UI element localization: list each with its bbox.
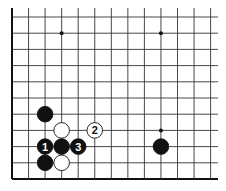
stones: 213: [37, 106, 168, 170]
black-stone: [153, 139, 169, 155]
black-stone: [37, 106, 53, 122]
go-board: 213: [0, 0, 226, 191]
move-number: 3: [75, 141, 81, 153]
star-point-icon: [159, 128, 163, 132]
black-stone: [37, 155, 53, 171]
star-point-icon: [60, 31, 64, 35]
black-stone: [54, 139, 70, 155]
black-stone-3: 3: [70, 139, 86, 155]
move-number: 2: [92, 124, 98, 136]
white-stone: [54, 155, 70, 171]
star-point-icon: [159, 31, 163, 35]
white-stone-2: 2: [87, 123, 103, 139]
white-stone: [54, 123, 70, 139]
move-number: 1: [42, 141, 48, 153]
black-stone-1: 1: [37, 139, 53, 155]
